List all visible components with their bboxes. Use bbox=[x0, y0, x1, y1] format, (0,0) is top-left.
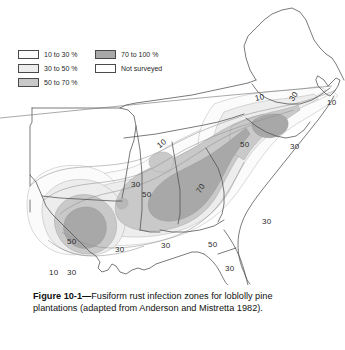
caption-figure-number: Figure 10-1 bbox=[33, 291, 82, 301]
contour-label: 10 bbox=[327, 98, 337, 107]
contour-label: 30 bbox=[67, 268, 77, 277]
caption-line3: (adapted from Anderson and Mistretta 198… bbox=[80, 303, 263, 313]
contour-label: 30 bbox=[115, 245, 125, 254]
contour-label: 30 bbox=[290, 142, 300, 151]
figure-caption: Figure 10-1—Fusiform rust infection zone… bbox=[33, 290, 283, 314]
legend-label-50-70: 50 to 70 % bbox=[44, 78, 77, 87]
legend-label-not-surveyed: Not surveyed bbox=[121, 64, 162, 73]
legend-item-not-surveyed: Not surveyed bbox=[95, 62, 162, 75]
legend-item-10-30: 10 to 30 % bbox=[18, 48, 77, 61]
legend-swatch-50-70 bbox=[18, 78, 39, 87]
legend-item-70-100: 70 to 100 % bbox=[95, 48, 162, 61]
legend-swatch-not-surveyed bbox=[95, 64, 116, 73]
legend-swatch-30-50 bbox=[18, 64, 39, 73]
contour-label: 10 bbox=[49, 268, 59, 277]
contour-label: 10 bbox=[254, 92, 265, 103]
legend-label-10-30: 10 to 30 % bbox=[44, 50, 77, 59]
legend-item-50-70: 50 to 70 % bbox=[18, 76, 77, 89]
legend-label-30-50: 30 to 50 % bbox=[44, 64, 77, 73]
legend-item-30-50: 30 to 50 % bbox=[18, 62, 77, 75]
contour-label: 50 bbox=[142, 190, 152, 199]
contour-label: 30 bbox=[161, 241, 171, 250]
caption-dash: — bbox=[82, 291, 91, 301]
legend-swatch-10-30 bbox=[18, 50, 39, 59]
contour-label: 50 bbox=[240, 140, 250, 149]
map-area: 1030105030103050703050303050103030 bbox=[0, 0, 345, 285]
legend-column-left: 10 to 30 % 30 to 50 % 50 to 70 % bbox=[18, 48, 77, 90]
contour-label: 50 bbox=[67, 237, 77, 246]
legend-column-right: 70 to 100 % Not surveyed bbox=[95, 48, 162, 76]
contour-label: 30 bbox=[131, 180, 141, 189]
legend-label-70-100: 70 to 100 % bbox=[121, 50, 158, 59]
contour-label: 50 bbox=[208, 240, 218, 249]
figure-container: 1030105030103050703050303050103030 10 to… bbox=[0, 0, 345, 350]
legend-swatch-70-100 bbox=[95, 50, 116, 59]
caption-line1: Fusiform rust infection bbox=[91, 291, 181, 301]
contour-label: 30 bbox=[225, 264, 235, 273]
contour-label: 30 bbox=[262, 217, 272, 226]
